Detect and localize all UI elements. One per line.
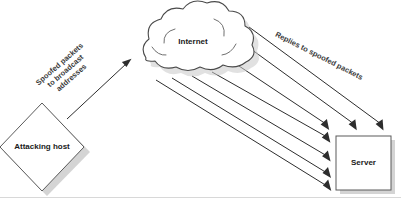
spoofed-packets-label-group: Spoofed packets to broadcast addresses <box>34 41 97 101</box>
network-attack-diagram: Internet Attacking host Server Spoofed p… <box>0 0 401 201</box>
internet-cloud-node: Internet <box>143 1 259 77</box>
server-label: Server <box>351 158 376 167</box>
attacking-host-label: Attacking host <box>14 142 70 151</box>
internet-cloud-label: Internet <box>178 37 208 46</box>
reply-arrow-5 <box>192 76 331 162</box>
server-node: Server <box>336 136 395 194</box>
reply-arrow-7 <box>156 80 331 191</box>
reply-arrow-1 <box>249 27 384 131</box>
reply-arrow-4 <box>212 72 330 143</box>
reply-arrow-6 <box>172 78 331 178</box>
attacking-host-node: Attacking host <box>0 103 90 196</box>
diagram-canvas: Internet Attacking host Server Spoofed p… <box>0 0 401 201</box>
